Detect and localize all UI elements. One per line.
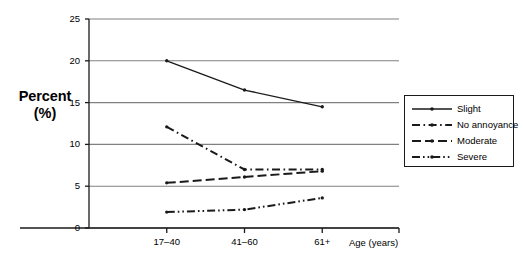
- legend-swatch-severe: [411, 151, 453, 163]
- x-tick-label: 41–60: [210, 237, 280, 247]
- gridlines: [89, 19, 399, 228]
- y-tick-label: 0: [56, 223, 80, 233]
- legend-label-slight: Slight: [457, 104, 481, 114]
- x-axis-title: Age (years): [349, 237, 398, 248]
- x-tick-label: 17–40: [132, 237, 202, 247]
- legend-swatch-no-annoyance: [411, 119, 453, 131]
- y-tick-label: 25: [56, 14, 80, 24]
- legend-label-moderate: Moderate: [457, 136, 497, 146]
- percent-by-age-line-chart: Percent (%) 0510152025 17–4041–6061+ Age…: [0, 0, 523, 266]
- x-axis-ticks: [167, 228, 399, 233]
- legend-swatch-moderate: [411, 135, 453, 147]
- legend-item[interactable]: Slight: [405, 101, 513, 117]
- y-tick-label: 10: [56, 139, 80, 149]
- legend-item[interactable]: Moderate: [405, 133, 513, 149]
- legend-item[interactable]: No annoyance: [405, 117, 513, 133]
- y-tick-label: 5: [56, 181, 80, 191]
- axis-lines: [20, 19, 399, 228]
- legend-item[interactable]: Severe: [405, 149, 513, 165]
- legend-label-severe: Severe: [457, 152, 487, 162]
- legend-swatch-slight: [411, 103, 453, 115]
- legend-label-no-annoyance: No annoyance: [457, 120, 518, 130]
- y-tick-label: 20: [56, 56, 80, 66]
- legend: Slight No annoyance Moderate Severe: [404, 95, 514, 167]
- data-series-group: [165, 59, 324, 214]
- y-tick-label: 15: [56, 98, 80, 108]
- x-tick-label: 61+: [287, 237, 357, 247]
